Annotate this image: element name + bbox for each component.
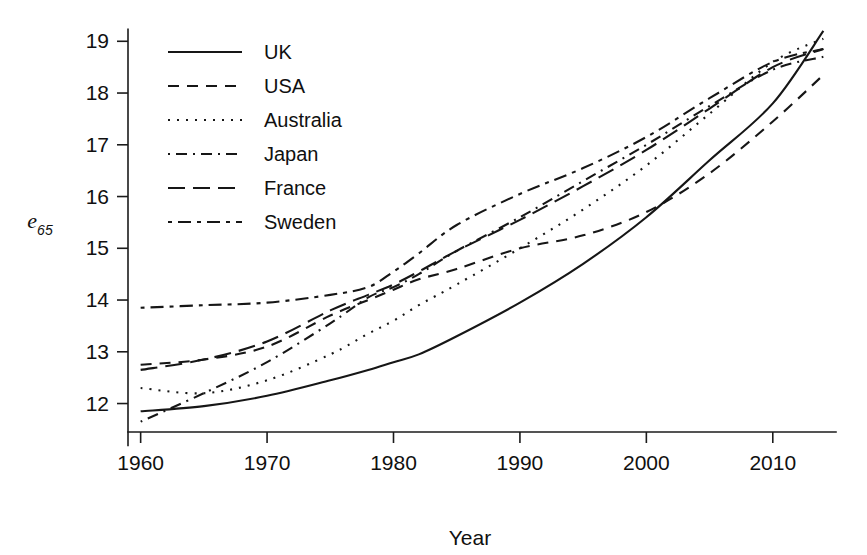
y-tick-label: 12	[86, 392, 109, 415]
legend-label-australia: Australia	[264, 109, 343, 131]
y-axis-title-base: e	[27, 208, 37, 233]
chart-figure: 1213141516171819 19601970198019902000201…	[0, 0, 867, 555]
x-tick-label: 1970	[244, 451, 291, 474]
y-tick-label: 15	[86, 236, 109, 259]
x-tick-label: 1960	[117, 451, 164, 474]
y-axis-title: e65	[27, 208, 53, 238]
y-tick-label: 14	[86, 288, 110, 311]
series-line-usa	[141, 75, 824, 365]
y-axis-title-subscript: 65	[37, 222, 53, 238]
line-chart-canvas: 1213141516171819 19601970198019902000201…	[0, 0, 867, 555]
y-tick-label: 19	[86, 29, 109, 52]
legend-label-japan: Japan	[264, 143, 319, 165]
x-axis: 196019701980199020002010	[117, 432, 836, 474]
series-line-sweden	[141, 49, 824, 308]
x-axis-ticks: 196019701980199020002010	[117, 432, 796, 474]
y-tick-label: 18	[86, 81, 109, 104]
series-line-japan	[141, 57, 824, 422]
x-axis-title: Year	[449, 526, 491, 549]
x-tick-label: 1980	[370, 451, 417, 474]
series-line-australia	[141, 39, 824, 394]
chart-legend: UKUSAAustraliaJapanFranceSweden	[168, 41, 343, 233]
legend-label-sweden: Sweden	[264, 211, 336, 233]
data-series-group	[141, 31, 824, 422]
legend-label-france: France	[264, 177, 326, 199]
x-tick-label: 2000	[623, 451, 670, 474]
y-axis: 1213141516171819	[86, 29, 128, 445]
y-tick-label: 13	[86, 340, 109, 363]
y-tick-label: 16	[86, 185, 109, 208]
legend-label-uk: UK	[264, 41, 292, 63]
x-tick-label: 2010	[749, 451, 796, 474]
y-axis-ticks: 1213141516171819	[86, 29, 128, 414]
x-tick-label: 1990	[497, 451, 544, 474]
y-tick-label: 17	[86, 133, 109, 156]
legend-label-usa: USA	[264, 75, 306, 97]
series-line-france	[141, 49, 824, 370]
